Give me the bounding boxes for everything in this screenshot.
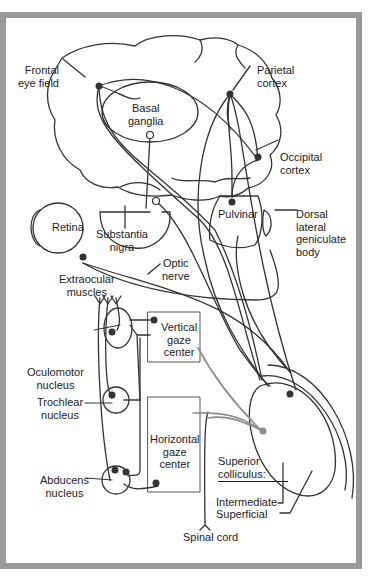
occipital-neuron: [255, 154, 262, 161]
label-vertical-gaze-center: Vertical gaze center: [161, 321, 197, 359]
label-pulvinar: Pulvinar: [218, 208, 258, 221]
label-occipital-cortex: Occipital cortex: [280, 151, 322, 176]
eye-movement-pathway-diagram: Frontal eye field Parietal cortex Basal …: [0, 0, 372, 584]
label-optic-nerve: Optic nerve: [162, 257, 190, 282]
label-extraocular-muscles: Extraocular muscles: [59, 273, 115, 298]
label-substantia-nigra: Substantia nigra: [96, 228, 148, 253]
label-basal-ganglia: Basal ganglia: [128, 102, 163, 127]
oculomotor-neuron: [109, 329, 116, 336]
parietal-neuron: [227, 91, 234, 98]
label-abducens-nucleus: Abducens nucleus: [40, 474, 89, 499]
cerebral-cortex-outline: [48, 36, 281, 200]
colliculus-superficial-neuron: [260, 428, 267, 435]
basal-ganglia-inhibitory-neuron: [147, 132, 154, 139]
label-superficial-layer: Superficial: [216, 508, 267, 521]
label-dorsal-lateral-geniculate-body: Dorsal lateral geniculate body: [296, 208, 346, 258]
label-superior-colliculus: Superior colliculus:: [218, 455, 288, 482]
substantia-nigra-inhibitory-neuron: [153, 198, 160, 205]
fef-neuron: [96, 83, 103, 90]
label-horizontal-gaze-center: Horizontal gaze center: [150, 433, 200, 471]
pulvinar-neuron: [229, 199, 236, 206]
label-retina: Retina: [52, 221, 84, 234]
abducens-neuron-1: [112, 467, 119, 474]
label-spinal-cord: Spinal cord: [183, 531, 238, 544]
label-trochlear-nucleus: Trochlear nucleus: [37, 396, 83, 421]
abducens-neuron-2: [123, 469, 130, 476]
trochlear-neuron: [109, 392, 116, 399]
label-parietal-cortex: Parietal cortex: [257, 64, 294, 89]
vertical-gaze-neuron: [151, 317, 158, 324]
colliculus-deep-neuron: [287, 391, 294, 398]
label-frontal-eye-field: Frontal eye field: [18, 64, 59, 89]
retina-neuron: [80, 254, 87, 261]
label-intermediate-layer: Intermediate: [216, 496, 277, 509]
label-oculomotor-nucleus: Oculomotor nucleus: [27, 366, 84, 391]
horizontal-gaze-neuron: [153, 480, 160, 487]
